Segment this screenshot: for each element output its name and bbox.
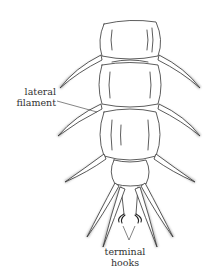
larva-diagram <box>0 0 211 279</box>
terminal-hooks <box>119 214 142 223</box>
terminal-hooks-leader <box>123 226 135 240</box>
segment-3 <box>100 109 160 160</box>
lateral-filament-leader <box>57 101 97 112</box>
terminal-hooks-label: terminal hooks <box>100 246 150 268</box>
segment-1 <box>100 20 161 59</box>
segment-4 <box>111 160 149 186</box>
lateral-filament-label: lateral filament <box>14 86 56 108</box>
segment-2 <box>99 60 161 107</box>
